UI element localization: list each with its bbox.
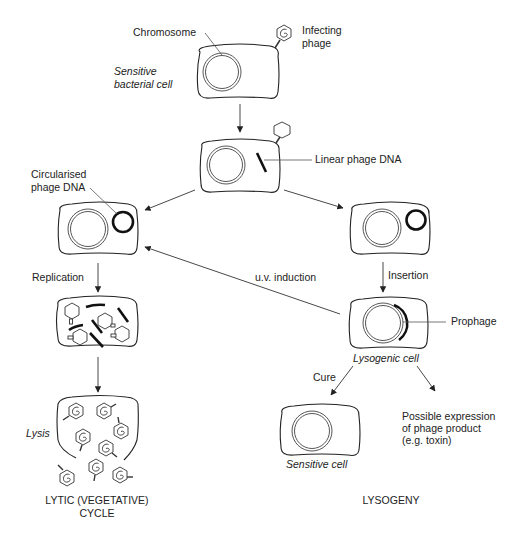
possible-expression-label-2: of phage product xyxy=(402,422,481,434)
arrow-expression xyxy=(417,366,435,391)
circularised-label: Circularised xyxy=(31,168,87,180)
sensitive-cell-label: Sensitive cell xyxy=(286,458,348,470)
uv-induction-label: u.v. induction xyxy=(255,271,316,283)
sensitive-bacterial-cell xyxy=(197,44,279,98)
lysogeny-title: LYSOGENY xyxy=(363,494,420,506)
right-cell-with-circular-phage-dna xyxy=(350,202,430,254)
linear-phage-dna-label: Linear phage DNA xyxy=(315,153,401,165)
infecting-phage-label: Infecting xyxy=(302,24,342,36)
arrow-to-lysogenic xyxy=(284,190,343,208)
prophage-label: Prophage xyxy=(451,315,497,327)
cell-with-linear-phage-dna xyxy=(200,139,280,192)
phage-life-cycle-diagram: Chromosome Infecting phage Sensitive bac… xyxy=(0,0,525,535)
replication-label: Replication xyxy=(32,271,84,283)
arrow-to-lytic xyxy=(145,190,195,210)
released-phages xyxy=(58,403,133,486)
infecting-phage-label-2: phage xyxy=(302,37,331,49)
sensitive-cell-cured xyxy=(280,404,360,455)
empty-phage-capsid-icon xyxy=(274,122,290,143)
circularised-label-2: phage DNA xyxy=(31,181,85,193)
insertion-label: Insertion xyxy=(388,269,428,281)
possible-expression-label-3: (e.g. toxin) xyxy=(402,434,452,446)
possible-expression-label: Possible expression xyxy=(402,410,496,422)
lytic-cycle-title: LYTIC (VEGETATIVE) xyxy=(45,494,148,506)
lytic-cycle-title-2: CYCLE xyxy=(79,507,114,519)
lysogenic-cell xyxy=(349,297,428,348)
infecting-phage-icon xyxy=(275,25,291,48)
cell-with-circular-phage-dna xyxy=(58,202,138,254)
cure-label: Cure xyxy=(313,371,336,383)
replicating-cell xyxy=(57,296,139,347)
lysogenic-cell-label: Lysogenic cell xyxy=(353,352,419,364)
sensitive-bacterial-cell-label-2: bacterial cell xyxy=(114,78,173,90)
chromosome-label: Chromosome xyxy=(133,26,196,38)
lysis-label: Lysis xyxy=(26,427,50,439)
sensitive-bacterial-cell-label: Sensitive xyxy=(114,65,157,77)
